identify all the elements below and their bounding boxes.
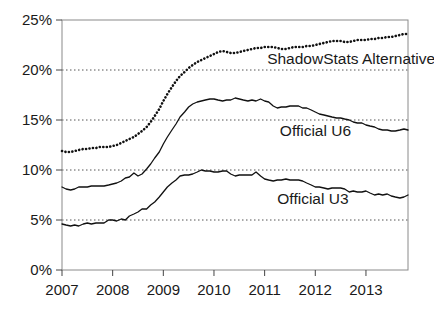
x-tick-label: 2012 xyxy=(299,281,332,298)
y-tick-label: 5% xyxy=(30,211,52,228)
x-tick-label: 2008 xyxy=(96,281,129,298)
series-label-official-u3: Official U3 xyxy=(277,190,348,207)
x-tick-label: 2009 xyxy=(147,281,180,298)
y-tick-label: 10% xyxy=(22,161,52,178)
series-line-official-u3 xyxy=(62,170,408,226)
y-tick-label: 15% xyxy=(22,111,52,128)
series-label-official-u6: Official U6 xyxy=(280,122,351,139)
y-tick-label: 25% xyxy=(22,11,52,28)
x-axis-ticks: 2007200820092010201120122013 xyxy=(45,270,382,298)
y-axis-ticks: 0%5%10%15%20%25% xyxy=(22,11,62,278)
series-label-shadowstats-alternative: ShadowStats Alternative xyxy=(267,50,434,67)
x-tick-label: 2011 xyxy=(249,281,281,298)
y-tick-label: 20% xyxy=(22,61,52,78)
x-tick-label: 2007 xyxy=(45,281,78,298)
unemployment-rate-chart: 0%5%10%15%20%25% 20072008200920102011201… xyxy=(0,0,434,314)
series-annotation-group: ShadowStats AlternativeOfficial U6Offici… xyxy=(267,50,434,207)
x-tick-label: 2010 xyxy=(197,281,230,298)
chart-canvas: 0%5%10%15%20%25% 20072008200920102011201… xyxy=(0,0,434,314)
y-tick-label: 0% xyxy=(30,261,52,278)
x-tick-label: 2013 xyxy=(349,281,382,298)
